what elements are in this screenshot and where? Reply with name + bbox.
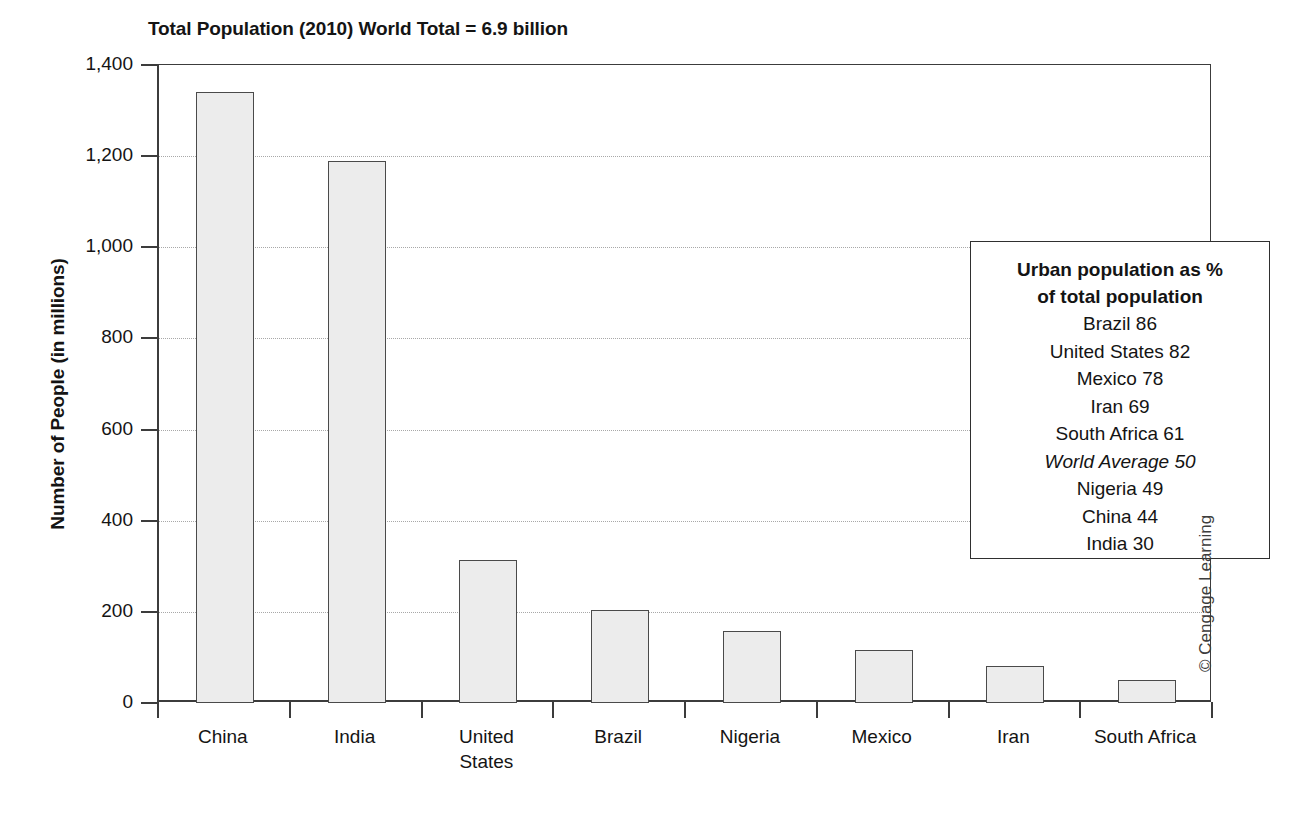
x-tick-label: South Africa (1090, 724, 1200, 749)
bar-iran (986, 666, 1044, 703)
y-tick-mark (141, 429, 158, 431)
x-tick-mark (552, 702, 554, 718)
x-tick-mark (816, 702, 818, 718)
annotation-row: Mexico 78 (971, 365, 1269, 393)
x-tick-mark (157, 702, 159, 718)
annotation-row: Iran 69 (971, 393, 1269, 421)
x-tick-label: United States (431, 724, 541, 774)
y-tick-label: 600 (23, 418, 133, 440)
y-axis-ticks: 1,4001,2001,0008006004002000 (0, 0, 157, 814)
bar-india (328, 161, 386, 703)
annotation-heading-line1: Urban population as % (971, 256, 1269, 283)
y-tick-mark (141, 520, 158, 522)
x-tick-mark (684, 702, 686, 718)
x-tick-mark (948, 702, 950, 718)
y-tick-label: 1,200 (23, 144, 133, 166)
annotation-row: World Average 50 (971, 448, 1269, 476)
x-tick-mark (421, 702, 423, 718)
x-tick-label: Iran (933, 724, 1093, 749)
annotation-rows: Brazil 86United States 82Mexico 78Iran 6… (971, 310, 1269, 558)
annotation-row: Brazil 86 (971, 310, 1269, 338)
bar-mexico (855, 650, 913, 703)
gridline (159, 612, 1210, 613)
y-tick-mark (141, 611, 158, 613)
y-tick-mark (141, 64, 158, 66)
annotation-box: Urban population as % of total populatio… (970, 241, 1270, 559)
x-tick-mark (289, 702, 291, 718)
y-tick-label: 800 (23, 326, 133, 348)
x-axis: ChinaIndiaUnited StatesBrazilNigeriaMexi… (157, 702, 1211, 812)
bar-china (196, 92, 254, 703)
annotation-row: South Africa 61 (971, 420, 1269, 448)
x-tick-label: India (275, 724, 435, 749)
y-tick-mark (141, 155, 158, 157)
gridline (159, 156, 1210, 157)
credit-text: © Cengage Learning (1196, 432, 1216, 672)
x-tick-mark (1079, 702, 1081, 718)
chart-title: Total Population (2010) World Total = 6.… (148, 18, 568, 40)
annotation-row: United States 82 (971, 338, 1269, 366)
bar-nigeria (723, 631, 781, 703)
population-bar-chart-figure: Total Population (2010) World Total = 6.… (0, 0, 1296, 814)
y-tick-mark (141, 702, 158, 704)
x-tick-mark (1211, 702, 1213, 718)
y-tick-label: 400 (23, 509, 133, 531)
annotation-row: Nigeria 49 (971, 475, 1269, 503)
y-tick-label: 1,400 (23, 53, 133, 75)
y-tick-label: 200 (23, 600, 133, 622)
bar-brazil (591, 610, 649, 703)
y-tick-mark (141, 337, 158, 339)
annotation-row: India 30 (971, 530, 1269, 558)
y-tick-label: 1,000 (23, 235, 133, 257)
y-tick-mark (141, 246, 158, 248)
annotation-heading-line2: of total population (971, 283, 1269, 310)
annotation-row: China 44 (971, 503, 1269, 531)
bar-united-states (459, 560, 517, 703)
plot-area: Urban population as % of total populatio… (157, 64, 1211, 702)
y-tick-label: 0 (23, 691, 133, 713)
bar-south-africa (1118, 680, 1176, 703)
